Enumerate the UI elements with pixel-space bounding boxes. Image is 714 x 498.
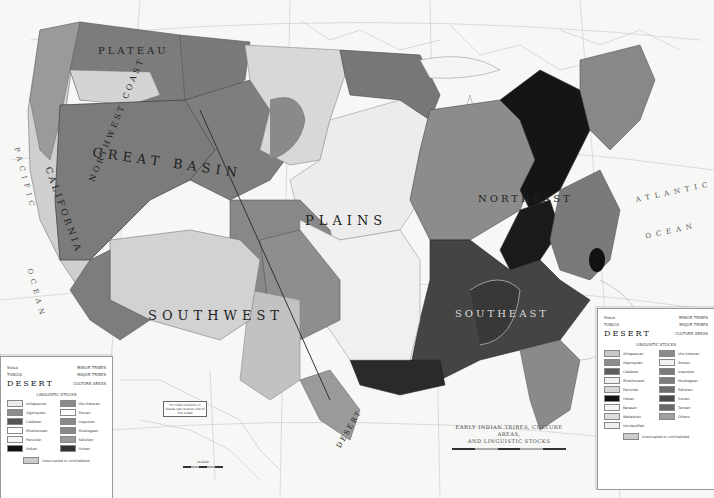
stock-name: Algonquian bbox=[623, 361, 643, 365]
legend-stock: Unclassified bbox=[604, 422, 653, 429]
legend-stock: Hokan bbox=[7, 445, 54, 452]
swatch bbox=[7, 445, 23, 452]
stock-name: Wakashan bbox=[623, 415, 641, 419]
swatch bbox=[7, 400, 23, 407]
swatch bbox=[659, 413, 675, 420]
swatch bbox=[604, 404, 620, 411]
legend-label-culture: CULTURE AREAS bbox=[73, 381, 106, 386]
map-title-line2: AND LINGUISTIC STOCKS bbox=[444, 438, 574, 445]
stock-name: Muskogean bbox=[79, 429, 99, 433]
legend-label-culture: CULTURE AREAS bbox=[675, 331, 708, 336]
legend-row-minor: Sioux MINOR TRIBES bbox=[604, 315, 708, 320]
legend-row-major: TUNICA MAJOR TRIBES bbox=[7, 372, 106, 377]
legend-stock: Yuman bbox=[659, 395, 708, 402]
stock-name: Athapascan bbox=[623, 352, 644, 356]
stock-name: Iroquoian bbox=[678, 370, 694, 374]
legend-stock: Salishan bbox=[659, 386, 708, 393]
swatch bbox=[60, 436, 76, 443]
legend-stock: Wakashan bbox=[604, 413, 653, 420]
legend-sample-culture: DESERT bbox=[604, 329, 651, 338]
legend-stock: Siouan bbox=[659, 359, 708, 366]
map-title-block: EARLY INDIAN TRIBES, CULTURE AREAS, AND … bbox=[444, 424, 574, 453]
stock-name: Caddoan bbox=[26, 420, 42, 424]
swatch bbox=[7, 436, 23, 443]
legend-stock: Iroquoian bbox=[659, 368, 708, 375]
legend-stocks-grid: Athapascan Uto-Aztecan Algonquian Siouan… bbox=[598, 350, 714, 429]
legend-stock: Algonquian bbox=[7, 409, 54, 416]
stock-name: Salishan bbox=[678, 388, 693, 392]
swatch bbox=[604, 350, 620, 357]
swatch bbox=[7, 418, 23, 425]
swatch bbox=[604, 413, 620, 420]
legend-sample-major: TUNICA bbox=[604, 322, 619, 327]
uninhabited-label: Unoccupied or uninhabited bbox=[42, 459, 89, 463]
swatch bbox=[60, 427, 76, 434]
legend-stock: Caddoan bbox=[604, 368, 653, 375]
swatch bbox=[659, 359, 675, 366]
legend-stocks-title: LINGUISTIC STOCKS bbox=[1, 392, 112, 397]
swatch bbox=[60, 409, 76, 416]
stock-name: Shoshonean bbox=[623, 379, 645, 383]
stock-name: Shoshonean bbox=[26, 429, 48, 433]
legend-stock: Algonquian bbox=[604, 359, 653, 366]
stock-name: Yuman bbox=[79, 447, 91, 451]
legend-sample-major: TUNICA bbox=[7, 372, 22, 377]
legend-stock: Keresan bbox=[604, 404, 653, 411]
stock-name: Siouan bbox=[79, 411, 91, 415]
swatch bbox=[659, 386, 675, 393]
swatch bbox=[604, 368, 620, 375]
swatch bbox=[60, 400, 76, 407]
legend-stock: Salishan bbox=[60, 436, 107, 443]
swatch bbox=[7, 427, 23, 434]
legend-stock: Shoshonean bbox=[7, 427, 54, 434]
legend-stock: Uto-Aztecan bbox=[60, 400, 107, 407]
culture-area-southeast: SOUTHEAST bbox=[455, 308, 549, 319]
swatch bbox=[23, 457, 39, 464]
stock-name: Uto-Aztecan bbox=[79, 402, 100, 406]
stock-name: Muskogean bbox=[678, 379, 698, 383]
legend-label-minor: MINOR TRIBES bbox=[679, 315, 708, 320]
stock-name: Iroquoian bbox=[79, 420, 95, 424]
legend-stock: Muskogean bbox=[659, 377, 708, 384]
swatch bbox=[604, 386, 620, 393]
swatch bbox=[60, 418, 76, 425]
stock-name: Unclassified bbox=[623, 424, 644, 428]
swatch bbox=[623, 433, 639, 440]
stock-name: Athapascan bbox=[26, 402, 47, 406]
legend-row-major: TUNICA MAJOR TRIBES bbox=[604, 322, 708, 327]
map-title-line1: EARLY INDIAN TRIBES, CULTURE AREAS, bbox=[444, 424, 574, 438]
stock-name: Caddoan bbox=[623, 370, 639, 374]
legend-stock: Athapascan bbox=[7, 400, 54, 407]
swatch bbox=[659, 350, 675, 357]
alaska-scale-bar bbox=[183, 466, 223, 468]
alaska-note: For tribal locations in Alaska see rever… bbox=[163, 401, 207, 417]
swatch bbox=[604, 422, 620, 429]
map-scale-bar bbox=[452, 448, 566, 450]
legend-stock: Hokan bbox=[604, 395, 653, 402]
legend-label-major: MAJOR TRIBES bbox=[679, 322, 708, 327]
legend-left: Sioux MINOR TRIBES TUNICA MAJOR TRIBES D… bbox=[0, 356, 113, 498]
legend-stocks-title: LINGUISTIC STOCKS bbox=[598, 342, 714, 347]
legend-uninhabited: Unoccupied or uninhabited bbox=[1, 457, 112, 464]
stock-name: Tanoan bbox=[678, 406, 690, 410]
legend-stocks-grid: Athapascan Uto-Aztecan Algonquian Siouan… bbox=[1, 400, 112, 452]
swatch bbox=[659, 395, 675, 402]
stock-name: Hokan bbox=[623, 397, 634, 401]
legend-row-culture: DESERT CULTURE AREAS bbox=[604, 329, 708, 338]
legend-stock: Others bbox=[659, 413, 708, 420]
legend-stock: Siouan bbox=[60, 409, 107, 416]
stock-name: Siouan bbox=[678, 361, 690, 365]
legend-row-minor: Sioux MINOR TRIBES bbox=[7, 365, 106, 370]
stock-name: Hokan bbox=[26, 447, 37, 451]
legend-stock: Athapascan bbox=[604, 350, 653, 357]
legend-stock: Caddoan bbox=[7, 418, 54, 425]
swatch bbox=[659, 368, 675, 375]
legend-label-major: MAJOR TRIBES bbox=[77, 372, 106, 377]
legend-right: Sioux MINOR TRIBES TUNICA MAJOR TRIBES D… bbox=[597, 308, 714, 490]
stock-name: Yuman bbox=[678, 397, 690, 401]
culture-area-northeast: NORTHEAST bbox=[478, 193, 573, 204]
swatch bbox=[659, 377, 675, 384]
legend-stock: Penutian bbox=[604, 386, 653, 393]
swatch bbox=[604, 359, 620, 366]
stock-name: Salishan bbox=[79, 438, 94, 442]
